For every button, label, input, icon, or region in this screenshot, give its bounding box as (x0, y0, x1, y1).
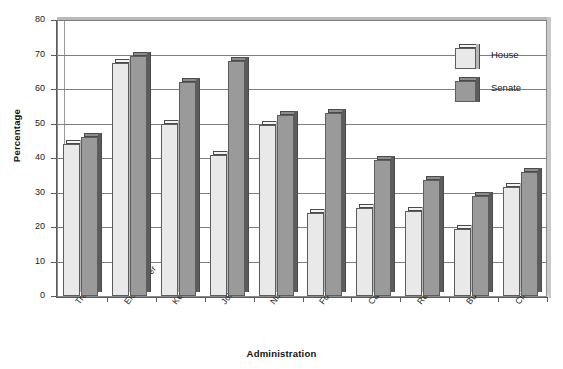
bar-house-nixon (259, 125, 276, 296)
bar-senate-eisenhower (130, 56, 147, 296)
y-tick (51, 193, 56, 194)
bar-house-ford (307, 213, 324, 296)
x-tick (107, 297, 108, 302)
x-tick (205, 297, 206, 302)
y-tick-label: 10 (5, 257, 45, 266)
y-tick (51, 124, 56, 125)
chart-title (0, 0, 563, 14)
gridline (58, 20, 547, 21)
bar-house-carter (356, 208, 373, 296)
bar-house-truman (63, 144, 80, 296)
y-tick-label: 80 (5, 15, 45, 24)
y-tick (51, 89, 56, 90)
plot-back-wall-right (547, 17, 551, 298)
bar-house-bush (454, 229, 471, 296)
bar-senate-bush (472, 196, 489, 296)
bar-house-eisenhower (112, 63, 129, 296)
bar-senate-reagan (423, 180, 440, 296)
bar-senate-carter (374, 160, 391, 296)
x-tick (449, 297, 450, 302)
y-tick-label: 0 (5, 291, 45, 300)
bar-house-johnson (210, 155, 227, 296)
bar-senate-johnson (228, 61, 245, 296)
legend-swatch-house-icon (455, 44, 476, 65)
legend-label-senate: Senate (491, 82, 521, 93)
y-axis-line (56, 20, 57, 297)
x-axis-title: Administration (0, 348, 563, 359)
bar-house-clinton (503, 187, 520, 296)
x-tick (254, 297, 255, 302)
legend-item-house: House (455, 40, 547, 73)
y-tick-label: 70 (5, 50, 45, 59)
y-axis-title: Percentage (11, 76, 22, 196)
x-tick (156, 297, 157, 302)
y-tick (51, 20, 56, 21)
x-tick (547, 297, 548, 302)
y-tick (51, 227, 56, 228)
legend-label-house: House (491, 49, 518, 60)
bar-senate-kennedy (179, 82, 196, 296)
x-tick (351, 297, 352, 302)
x-tick (498, 297, 499, 302)
bar-house-reagan (405, 211, 422, 296)
bar-chart: 01020304050607080 TrumanEisenhowerKenned… (0, 0, 563, 369)
bar-senate-ford (325, 113, 342, 296)
bar-senate-truman (81, 137, 98, 296)
x-tick (400, 297, 401, 302)
y-tick (51, 158, 56, 159)
legend-swatch-senate-icon (455, 77, 476, 98)
bar-senate-nixon (277, 115, 294, 296)
legend-item-senate: Senate (455, 73, 547, 106)
y-tick (51, 55, 56, 56)
bar-house-kennedy (161, 124, 178, 297)
y-tick-label: 20 (5, 222, 45, 231)
legend: House Senate (455, 40, 547, 106)
y-tick (51, 262, 56, 263)
x-tick (303, 297, 304, 302)
bar-senate-clinton (521, 172, 538, 296)
